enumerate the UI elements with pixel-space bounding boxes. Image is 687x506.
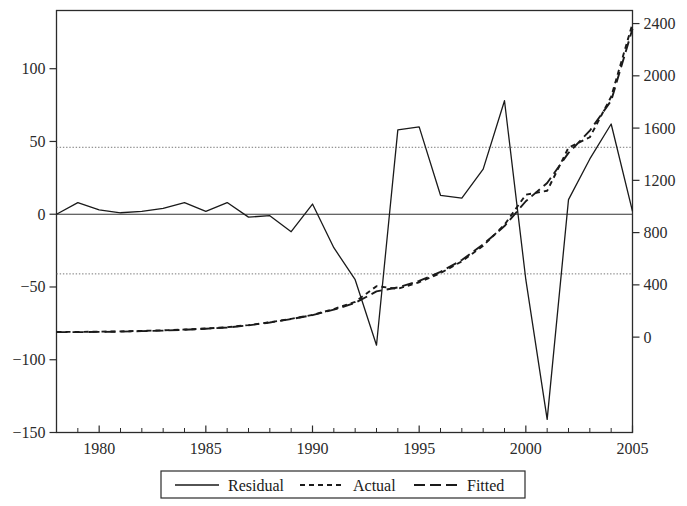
y-axis-right-tick-labels: 04008001200160020002400 [644, 15, 676, 346]
y-right-tick-label-1200: 1200 [644, 172, 676, 189]
y-left-tick-label-50: 50 [30, 133, 46, 150]
x-tick-label-1995: 1995 [403, 440, 435, 457]
y-right-tick-label-2400: 2400 [644, 15, 676, 32]
x-tick-label-2000: 2000 [510, 440, 542, 457]
y-right-tick-label-400: 400 [644, 276, 668, 293]
plot-border [57, 11, 633, 433]
legend-label-residual: Residual [228, 477, 285, 494]
legend-label-fitted: Fitted [467, 477, 504, 494]
x-tick-label-1990: 1990 [297, 440, 329, 457]
chart-container: 198019851990199520002005 −150−100−500501… [0, 0, 687, 506]
y-left-tick-label--150: −150 [12, 424, 45, 441]
x-tick-label-1980: 1980 [83, 440, 115, 457]
y-axis-left-ticks [50, 69, 57, 433]
series-line-actual [57, 24, 633, 332]
y-right-tick-label-2000: 2000 [644, 67, 676, 84]
y-left-tick-label-100: 100 [22, 60, 46, 77]
y-right-tick-label-1600: 1600 [644, 120, 676, 137]
y-axis-left-tick-labels: −150−100−50050100 [12, 60, 45, 441]
x-axis-tick-labels: 198019851990199520002005 [83, 440, 648, 457]
y-right-tick-label-0: 0 [644, 329, 652, 346]
residual-actual-fitted-chart: 198019851990199520002005 −150−100−500501… [0, 0, 687, 506]
plot-frame [57, 11, 633, 433]
series-line-residual [57, 101, 633, 420]
y-left-tick-label--100: −100 [12, 351, 45, 368]
y-right-tick-label-800: 800 [644, 224, 668, 241]
legend-label-actual: Actual [353, 477, 396, 494]
series-line-fitted [57, 29, 633, 332]
chart-legend: ResidualActualFitted [161, 471, 525, 498]
y-left-tick-label-0: 0 [38, 206, 46, 223]
y-left-tick-label--50: −50 [20, 278, 45, 295]
x-axis-ticks [57, 426, 633, 433]
x-tick-label-1985: 1985 [190, 440, 222, 457]
series-lines [57, 24, 633, 420]
x-tick-label-2005: 2005 [617, 440, 649, 457]
y-axis-right-ticks [633, 24, 640, 338]
